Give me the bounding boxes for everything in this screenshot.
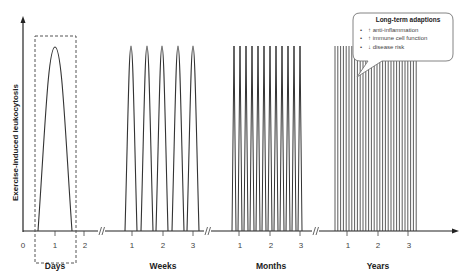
tick-label: 3 [407,241,411,250]
tick-label: 2 [269,241,273,250]
tick-label: 1 [346,241,350,250]
callout-title: Long-term adaptions [364,16,452,23]
y-axis-label: Exercise-induced leukocytosis [11,68,20,218]
tick-label: 1 [53,241,57,250]
tick-label: 1 [130,241,134,250]
group-label-years: Years [367,261,390,271]
tick-label: 1 [238,241,242,250]
group-label-weeks: Weeks [150,261,177,271]
months-peaks [232,46,302,231]
callout-item: •↓ disease risk [360,43,452,51]
weeks-peaks [125,46,199,231]
callout-item: •↑ anti-inflammation [360,26,452,34]
callout-content: Long-term adaptions •↑ anti-inflammation… [360,16,452,51]
tick-label: 3 [299,241,303,250]
callout-item: •↑ immune cell function [360,34,452,42]
tick-label: 2 [161,241,165,250]
days-highlight-box [35,36,76,263]
years-bars [335,46,416,231]
x-axis-ticks [55,231,408,236]
x-axis-arrow-icon [452,229,459,234]
tick-label: 3 [191,241,195,250]
tick-label: 2 [376,241,380,250]
group-label-days: Days [45,261,65,271]
tick-label: 0 [21,241,25,250]
tick-label: 2 [83,241,87,250]
group-label-months: Months [256,261,286,271]
y-axis-arrow-icon [21,16,26,23]
days-peak [38,47,72,231]
